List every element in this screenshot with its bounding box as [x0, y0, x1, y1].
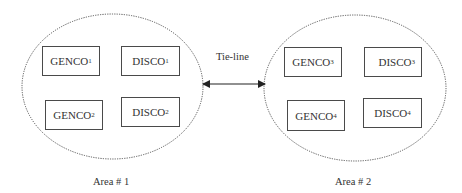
area-2-boundary: [264, 15, 446, 161]
genco-3-label: GENCO: [292, 56, 330, 68]
disco-3-box: DISCO3: [364, 47, 422, 77]
disco-1-label: DISCO: [132, 55, 165, 67]
genco-2-label: GENCO: [53, 109, 91, 121]
disco-2-box: DISCO2: [121, 97, 180, 127]
genco-1-label: GENCO: [50, 55, 88, 67]
area-1-label: Area # 1: [93, 176, 129, 187]
disco-2-label: DISCO: [132, 106, 165, 118]
disco-3-label: DISCO: [378, 56, 411, 68]
genco-4-label: GENCO: [295, 110, 333, 122]
disco-4-box: DISCO4: [363, 98, 422, 128]
area-2-label: Area # 2: [335, 176, 371, 187]
area-1-boundary: [22, 14, 203, 159]
disco-1-box: DISCO1: [121, 46, 180, 76]
diagram-canvas: [0, 0, 462, 193]
disco-4-label: DISCO: [374, 107, 407, 119]
genco-4-box: GENCO4: [287, 100, 345, 131]
genco-3-box: GENCO3: [284, 47, 342, 77]
tie-line-label: Tie-line: [216, 51, 249, 62]
genco-1-box: GENCO1: [42, 46, 100, 76]
genco-2-box: GENCO2: [45, 100, 103, 130]
